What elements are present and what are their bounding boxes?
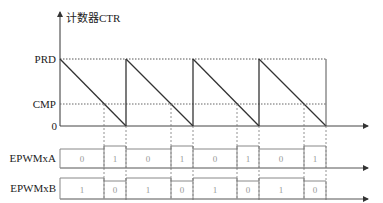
bit-b-4: 1 bbox=[213, 185, 218, 195]
bit-a-7: 1 bbox=[313, 154, 318, 164]
prd-label: PRD bbox=[35, 53, 56, 65]
y-axis-label: 计数器CTR bbox=[66, 12, 121, 24]
bit-a-2: 0 bbox=[146, 154, 151, 164]
cmp-label: CMP bbox=[33, 98, 56, 110]
signal-label-epwmxa: EPWMxA bbox=[10, 152, 57, 164]
bit-b-7: 0 bbox=[313, 185, 318, 195]
pwm-timing-diagram: 计数器CTR PRD CMP 0 EPWMxA EPWMxB bbox=[0, 0, 383, 203]
bit-a-4: 0 bbox=[213, 154, 218, 164]
zero-label: 0 bbox=[52, 120, 58, 132]
diagram-canvas: 计数器CTR PRD CMP 0 EPWMxA EPWMxB bbox=[0, 0, 383, 203]
bit-a-5: 1 bbox=[246, 154, 251, 164]
epwmxb-bits: 1 0 1 0 1 0 1 0 bbox=[80, 185, 318, 195]
bit-b-5: 0 bbox=[246, 185, 251, 195]
bit-a-1: 1 bbox=[113, 154, 118, 164]
bit-b-6: 1 bbox=[279, 185, 284, 195]
bit-b-0: 1 bbox=[80, 185, 85, 195]
bit-b-1: 0 bbox=[113, 185, 118, 195]
counter-waveform bbox=[60, 59, 326, 126]
bit-a-0: 0 bbox=[80, 154, 85, 164]
bit-b-2: 1 bbox=[146, 185, 151, 195]
bit-b-3: 0 bbox=[180, 185, 185, 195]
signal-label-epwmxb: EPWMxB bbox=[10, 182, 56, 194]
bit-a-3: 1 bbox=[180, 154, 185, 164]
bit-a-6: 0 bbox=[279, 154, 284, 164]
epwmxa-bits: 0 1 0 1 0 1 0 1 bbox=[80, 154, 318, 164]
